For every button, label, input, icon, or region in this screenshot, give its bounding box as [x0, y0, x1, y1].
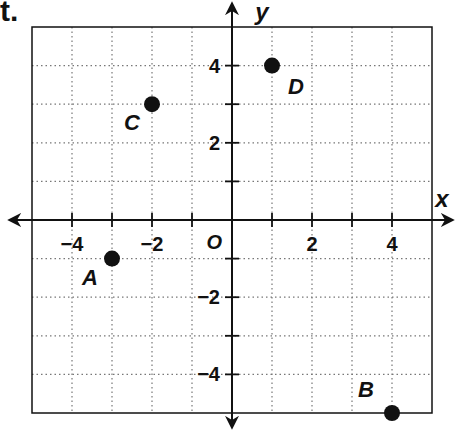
point-label-c: C: [124, 110, 141, 135]
y-tick-label: −4: [197, 363, 221, 385]
y-tick-label: −2: [197, 286, 220, 308]
x-tick-label: −2: [141, 233, 164, 255]
point-c: [144, 96, 160, 112]
point-label-a: A: [81, 265, 98, 290]
tick-labels: −4−22442−2−4Oxy: [61, 0, 451, 385]
point-b: [384, 405, 400, 421]
point-label-b: B: [358, 377, 374, 402]
origin-label: O: [206, 231, 222, 253]
point-a: [104, 251, 120, 267]
coordinate-plane: −4−22442−2−4Oxy ABCD: [0, 0, 462, 431]
x-tick-label: 2: [306, 233, 317, 255]
y-tick-label: 2: [209, 132, 220, 154]
axes: [10, 4, 452, 427]
point-label-d: D: [288, 74, 304, 99]
x-tick-label: 4: [386, 233, 398, 255]
x-axis-label: x: [433, 185, 450, 212]
x-tick-label: −4: [61, 233, 85, 255]
y-axis-label: y: [254, 0, 270, 25]
point-d: [264, 58, 280, 74]
y-tick-label: 4: [209, 55, 221, 77]
